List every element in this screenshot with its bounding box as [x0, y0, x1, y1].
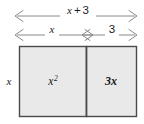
area-model-diagram: x+3 x 3 x2 3x x	[0, 0, 144, 124]
left-width-label: x	[49, 23, 55, 35]
total-width-label-number: 3	[83, 4, 89, 16]
area-model-svg: x+3 x 3 x2 3x x	[0, 0, 144, 124]
total-width-label-variable: x	[66, 4, 72, 16]
total-width-label-operator: +	[74, 4, 81, 16]
right-cell-label: 3x	[104, 74, 117, 88]
total-width-label: x+3	[66, 4, 89, 16]
right-width-label: 3	[109, 23, 115, 35]
height-label: x	[6, 75, 12, 87]
left-cell-label-exponent: 2	[54, 74, 58, 83]
